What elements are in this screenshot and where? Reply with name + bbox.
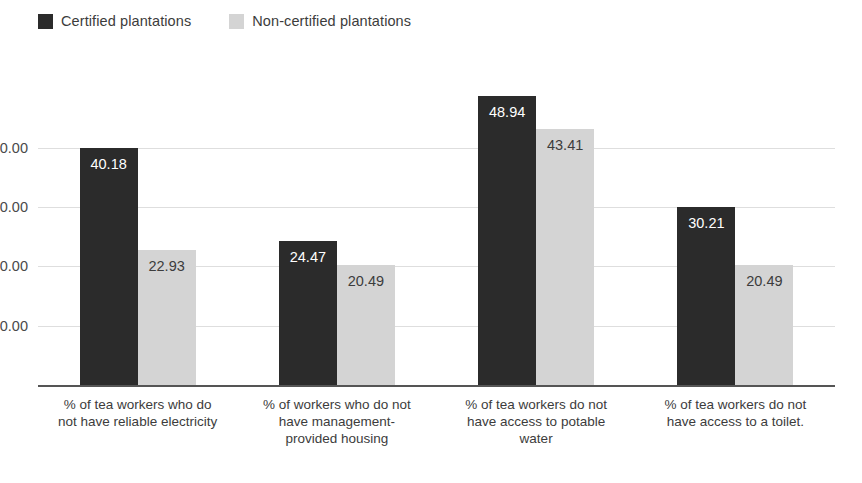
x-axis-category-label: % of tea workers do not have access to a… <box>651 396 819 430</box>
bar-value-label: 30.21 <box>677 215 735 231</box>
chart-legend: Certified plantationsNon-certified plant… <box>38 10 449 32</box>
bar-0-2[interactable]: 48.94 <box>478 96 536 386</box>
bar-value-label: 20.49 <box>337 273 395 289</box>
bar-1-1[interactable]: 20.49 <box>337 265 395 386</box>
bar-1-2[interactable]: 43.41 <box>536 129 594 386</box>
legend-item-1[interactable]: Non-certified plantations <box>229 13 411 29</box>
legend-swatch-icon <box>38 14 53 29</box>
bar-0-1[interactable]: 24.47 <box>279 241 337 386</box>
bar-group: 48.9443.41 <box>478 70 594 386</box>
y-axis-tick-label: 20.00 <box>0 258 28 274</box>
bar-value-label: 24.47 <box>279 249 337 265</box>
legend-label: Non-certified plantations <box>252 13 411 29</box>
bar-0-0[interactable]: 40.18 <box>80 148 138 386</box>
bar-value-label: 48.94 <box>478 104 536 120</box>
x-axis-category-label: % of workers who do not have management-… <box>253 396 421 447</box>
bar-0-3[interactable]: 30.21 <box>677 207 735 386</box>
legend-label: Certified plantations <box>61 13 191 29</box>
bar-value-label: 22.93 <box>138 258 196 274</box>
plot-area: 10.0020.0030.0040.0040.1822.9324.4720.49… <box>38 70 835 386</box>
bar-value-label: 43.41 <box>536 137 594 153</box>
bar-group: 30.2120.49 <box>677 70 793 386</box>
y-axis-tick-label: 40.00 <box>0 140 28 156</box>
y-axis-tick-label: 30.00 <box>0 199 28 215</box>
bar-group: 24.4720.49 <box>279 70 395 386</box>
x-axis-category-label: % of tea workers do not have access to p… <box>452 396 620 447</box>
legend-swatch-icon <box>229 14 244 29</box>
bar-group: 40.1822.93 <box>80 70 196 386</box>
y-axis-tick-label: 10.00 <box>0 318 28 334</box>
bar-1-3[interactable]: 20.49 <box>735 265 793 386</box>
bar-1-0[interactable]: 22.93 <box>138 250 196 386</box>
bar-chart: Certified plantationsNon-certified plant… <box>0 0 862 483</box>
bar-value-label: 20.49 <box>735 273 793 289</box>
x-axis-category-label: % of tea workers who do not have reliabl… <box>54 396 222 430</box>
legend-item-0[interactable]: Certified plantations <box>38 13 191 29</box>
bar-value-label: 40.18 <box>80 156 138 172</box>
x-axis-line <box>38 385 835 387</box>
